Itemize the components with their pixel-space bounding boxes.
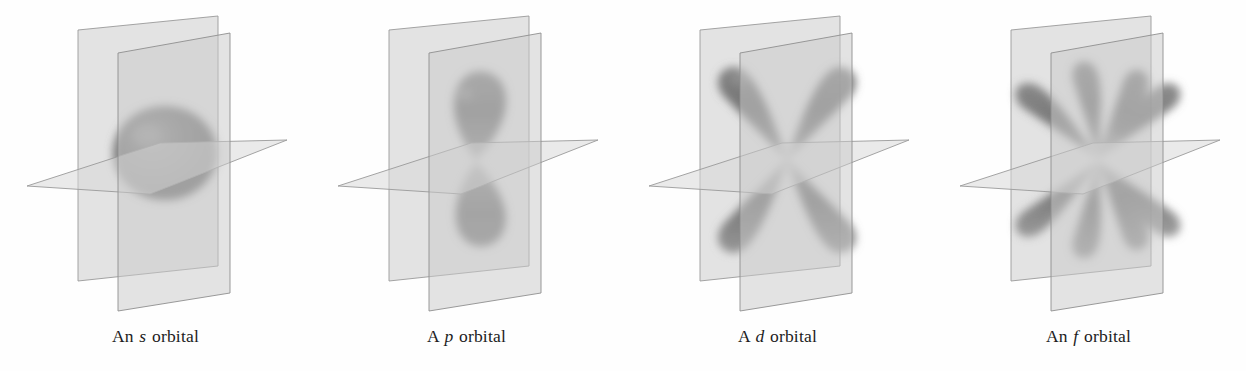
orbital-panel-s: An s orbital — [0, 0, 311, 371]
orbital-panel-d: A d orbital — [622, 0, 933, 371]
panel-caption-p: A p orbital — [311, 326, 622, 347]
caption-prefix: An — [1046, 326, 1068, 346]
caption-prefix: An — [112, 326, 134, 346]
orbital-diagram-d — [622, 0, 933, 320]
orbital-diagram-p — [311, 0, 622, 320]
front-vertical-plane — [118, 33, 230, 311]
front-vertical-plane — [429, 33, 541, 311]
orbital-panel-f: An f orbital — [933, 0, 1244, 371]
caption-orbital-letter: d — [754, 326, 765, 346]
caption-suffix: orbital — [459, 326, 506, 346]
caption-prefix: A — [738, 326, 750, 346]
panel-caption-s: An s orbital — [0, 326, 311, 347]
front-vertical-plane — [1051, 33, 1163, 311]
caption-orbital-letter: f — [1072, 326, 1079, 346]
panel-caption-d: A d orbital — [622, 326, 933, 347]
caption-orbital-letter: p — [443, 326, 454, 346]
orbital-figure: An s orbital — [0, 0, 1246, 371]
caption-suffix: orbital — [152, 326, 199, 346]
orbital-panel-p: A p orbital — [311, 0, 622, 371]
caption-orbital-letter: s — [138, 326, 147, 346]
front-vertical-plane — [740, 33, 852, 311]
caption-prefix: A — [427, 326, 439, 346]
panel-caption-f: An f orbital — [933, 326, 1244, 347]
orbital-diagram-f — [933, 0, 1244, 320]
caption-suffix: orbital — [770, 326, 817, 346]
orbital-diagram-s — [0, 0, 311, 320]
caption-suffix: orbital — [1084, 326, 1131, 346]
